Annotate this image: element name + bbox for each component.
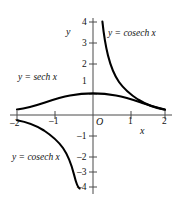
y-tick-label-4: 4 xyxy=(82,18,87,28)
y-tick-label-neg1: –1 xyxy=(77,132,87,142)
x-tick-label-2: 2 xyxy=(162,117,167,127)
y-tick-label-neg2: –2 xyxy=(77,153,87,163)
y-tick-label-2: 2 xyxy=(82,60,87,70)
annotation-cosech-top: y = cosech x xyxy=(108,29,156,39)
y-tick-label-neg4: –4 xyxy=(77,183,87,193)
x-axis-label: x xyxy=(140,126,144,136)
x-tick-label-neg1: –1 xyxy=(49,117,59,127)
origin-label: O xyxy=(96,117,103,127)
y-tick-label-3: 3 xyxy=(82,39,87,49)
annotation-sech: y = sech x xyxy=(18,73,57,83)
y-tick-label-1: 1 xyxy=(82,77,87,87)
x-tick-label-neg2: –2 xyxy=(10,119,20,129)
y-tick-label-neg3: –3 xyxy=(77,168,87,178)
y-axis-label: y xyxy=(66,27,70,37)
x-tick-label-1: 1 xyxy=(128,117,133,127)
hyperbolic-functions-graph: y x O –2 –1 1 2 4 3 2 1 –1 –2 –3 –4 y = … xyxy=(0,0,181,203)
annotation-cosech-bottom: y = cosech x xyxy=(12,153,60,163)
